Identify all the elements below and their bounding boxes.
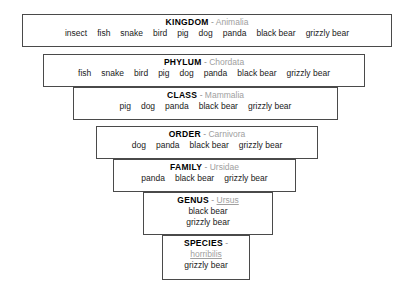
member-item: grizzly bear <box>163 260 249 271</box>
rank-separator-kingdom: - <box>209 17 216 27</box>
rank-label-genus: GENUS <box>177 195 209 205</box>
rank-separator-class: - <box>197 90 205 100</box>
rank-box-family: FAMILY - Ursidae pandablack beargrizzly … <box>113 159 296 192</box>
member-item: dog <box>199 28 213 38</box>
member-item: black bear <box>237 68 276 78</box>
rank-box-species: SPECIES - horribilis grizzly bear <box>162 235 250 280</box>
latin-name-order: Carnivora <box>208 129 245 139</box>
rank-label-family: FAMILY <box>170 162 202 172</box>
rank-separator-family: - <box>202 162 210 172</box>
members-genus: black beargrizzly bear <box>144 206 272 227</box>
rank-separator-species: - <box>223 238 228 248</box>
member-item: snake <box>101 68 124 78</box>
rank-header-genus: GENUS - Ursus <box>144 195 272 206</box>
rank-label-class: CLASS <box>167 90 197 100</box>
member-item: bird <box>153 28 167 38</box>
taxonomy-diagram: KINGDOM - Animalia insectfishsnakebirdpi… <box>0 0 410 296</box>
member-item: black bear <box>144 206 272 217</box>
members-family: pandablack beargrizzly bear <box>114 173 295 184</box>
rank-box-kingdom: KINGDOM - Animalia insectfishsnakebirdpi… <box>22 14 392 47</box>
member-item: pig <box>120 101 131 111</box>
rank-header-kingdom: KINGDOM - Animalia <box>23 17 391 28</box>
member-item: panda <box>223 28 247 38</box>
member-item: panda <box>165 101 189 111</box>
members-phylum: fishsnakebirdpigdogpandablack beargrizzl… <box>44 68 364 79</box>
member-item: pig <box>177 28 188 38</box>
latin-name-species: horribilis <box>163 249 249 260</box>
latin-name-family: Ursidae <box>210 162 239 172</box>
member-item: grizzly bear <box>239 140 282 150</box>
rank-header-species: SPECIES - <box>163 238 249 249</box>
latin-line-species: horribilis <box>163 249 249 260</box>
member-item: panda <box>156 140 180 150</box>
rank-label-order: ORDER <box>169 129 201 139</box>
member-item: snake <box>120 28 143 38</box>
members-class: pigdogpandablack beargrizzly bear <box>74 101 337 112</box>
member-item: pig <box>158 68 169 78</box>
member-item: black bear <box>256 28 295 38</box>
rank-label-kingdom: KINGDOM <box>166 17 209 27</box>
member-item: grizzly bear <box>144 217 272 228</box>
member-item: fish <box>97 28 110 38</box>
member-item: grizzly bear <box>224 173 267 183</box>
member-item: black bear <box>175 173 214 183</box>
member-item: grizzly bear <box>287 68 330 78</box>
member-item: insect <box>65 28 87 38</box>
latin-name-genus: Ursus <box>217 195 239 205</box>
rank-header-class: CLASS - Mammalia <box>74 90 337 101</box>
member-item: bird <box>134 68 148 78</box>
rank-box-order: ORDER - Carnivora dogpandablack beargriz… <box>96 126 318 159</box>
member-item: dog <box>141 101 155 111</box>
members-species: grizzly bear <box>163 260 249 271</box>
latin-name-class: Mammalia <box>205 90 244 100</box>
member-item: black bear <box>190 140 229 150</box>
member-item: fish <box>78 68 91 78</box>
rank-separator-phylum: - <box>202 57 210 67</box>
member-item: grizzly bear <box>248 101 291 111</box>
rank-label-phylum: PHYLUM <box>164 57 202 67</box>
member-item: panda <box>204 68 228 78</box>
member-item: dog <box>179 68 193 78</box>
latin-name-phylum: Chordata <box>209 57 244 67</box>
latin-name-kingdom: Animalia <box>216 17 249 27</box>
rank-separator-genus: - <box>209 195 217 205</box>
rank-label-species: SPECIES <box>184 238 223 248</box>
rank-box-class: CLASS - Mammalia pigdogpandablack beargr… <box>73 87 338 120</box>
rank-box-genus: GENUS - Ursus black beargrizzly bear <box>143 192 273 235</box>
member-item: panda <box>141 173 165 183</box>
rank-header-family: FAMILY - Ursidae <box>114 162 295 173</box>
members-kingdom: insectfishsnakebirdpigdogpandablack bear… <box>23 28 391 39</box>
rank-header-phylum: PHYLUM - Chordata <box>44 57 364 68</box>
rank-header-order: ORDER - Carnivora <box>97 129 317 140</box>
rank-box-phylum: PHYLUM - Chordata fishsnakebirdpigdogpan… <box>43 54 365 87</box>
member-item: dog <box>132 140 146 150</box>
member-item: grizzly bear <box>306 28 349 38</box>
members-order: dogpandablack beargrizzly bear <box>97 140 317 151</box>
member-item: black bear <box>199 101 238 111</box>
